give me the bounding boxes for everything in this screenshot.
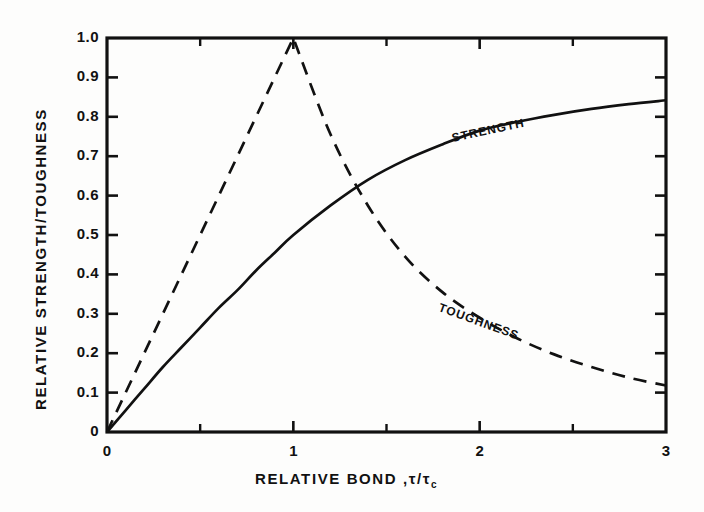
y-tick-label: 0.9 <box>77 67 99 84</box>
series-line-toughness <box>107 38 666 432</box>
series-line-strength <box>107 100 666 432</box>
y-axis-title: RELATIVE STRENGTH/TOUGHNESS <box>32 108 49 410</box>
chart-plot-area <box>0 0 704 512</box>
y-tick-label: 0.2 <box>77 343 99 360</box>
x-tick-label: 1 <box>273 442 313 459</box>
y-tick-label: 0.1 <box>77 383 99 400</box>
y-tick-label: 0.6 <box>77 186 99 203</box>
y-tick-label: 1.0 <box>77 28 99 45</box>
y-tick-label: 0 <box>90 422 99 439</box>
y-tick-label: 0.4 <box>77 264 99 281</box>
x-axis-title: RELATIVE BOND ,τ/τc <box>255 470 438 490</box>
axis-ticks <box>107 38 666 432</box>
x-axis-title-subscript: c <box>431 479 438 490</box>
data-series <box>107 38 666 432</box>
figure-container: RELATIVE STRENGTH/TOUGHNESS RELATIVE BON… <box>0 0 704 512</box>
y-tick-label: 0.8 <box>77 107 99 124</box>
x-axis-title-symbol: τ/τ <box>409 470 431 487</box>
axes-frame <box>107 38 666 432</box>
y-tick-label: 0.3 <box>77 304 99 321</box>
y-tick-label: 0.7 <box>77 146 99 163</box>
x-axis-title-text: RELATIVE BOND , <box>255 470 409 487</box>
y-tick-label: 0.5 <box>77 225 99 242</box>
x-tick-label: 3 <box>646 442 686 459</box>
x-tick-label: 0 <box>87 442 127 459</box>
x-tick-label: 2 <box>460 442 500 459</box>
